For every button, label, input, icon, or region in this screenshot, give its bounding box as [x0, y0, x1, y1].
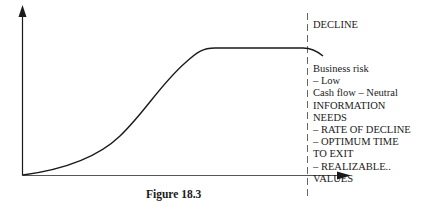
stage-label-decline: DECLINE — [313, 19, 358, 31]
note-line: TO EXIT — [313, 148, 411, 160]
note-line: VALUES — [313, 173, 411, 185]
note-line: – RATE OF DECLINE — [313, 124, 411, 136]
decline-notes: Business risk – Low Cash flow – Neutral … — [313, 63, 411, 185]
note-line: INFORMATION — [313, 100, 411, 112]
note-line: – Low — [313, 75, 411, 87]
note-line: – REALIZABLE.. — [313, 161, 411, 173]
life-cycle-curve — [23, 48, 323, 175]
note-line: NEEDS — [313, 112, 411, 124]
note-line: Cash flow – Neutral — [313, 87, 411, 99]
note-line: – OPTIMUM TIME — [313, 136, 411, 148]
note-line: Business risk — [313, 63, 411, 75]
figure-caption: Figure 18.3 — [146, 188, 201, 200]
y-axis-arrow-icon — [19, 5, 27, 17]
